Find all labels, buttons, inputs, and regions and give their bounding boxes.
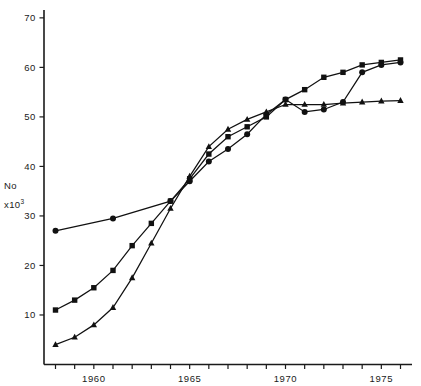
data-point-square bbox=[110, 268, 115, 273]
data-point-circle bbox=[206, 158, 212, 164]
y-axis-title-line1: No bbox=[4, 180, 17, 191]
chart-canvas: 10203040506070 1960196519701975 Nox103 bbox=[0, 0, 421, 386]
y-axis-tick-label: 40 bbox=[24, 161, 36, 172]
data-point-circle bbox=[53, 228, 59, 234]
data-point-square bbox=[53, 307, 58, 312]
data-point-square bbox=[168, 198, 173, 203]
data-point-circle bbox=[225, 146, 231, 152]
data-point-square bbox=[72, 297, 77, 302]
y-axis-tick-label: 20 bbox=[24, 260, 36, 271]
x-axis-tick-label: 1965 bbox=[178, 373, 202, 384]
y-axis-tick-label: 60 bbox=[24, 62, 36, 73]
data-point-square bbox=[302, 87, 307, 92]
data-point-square bbox=[206, 151, 211, 156]
y-axis-tick-label: 10 bbox=[24, 309, 36, 320]
data-point-square bbox=[379, 60, 384, 65]
data-point-square bbox=[129, 243, 134, 248]
y-axis-tick-label: 50 bbox=[24, 111, 36, 122]
data-point-square bbox=[359, 62, 364, 67]
data-point-circle bbox=[110, 215, 116, 221]
line-chart: 10203040506070 1960196519701975 Nox103 bbox=[0, 0, 421, 386]
x-axis-tick-label: 1970 bbox=[274, 373, 298, 384]
data-point-square bbox=[91, 285, 96, 290]
data-point-square bbox=[149, 221, 154, 226]
data-point-square bbox=[244, 124, 249, 129]
data-point-square bbox=[398, 57, 403, 62]
chart-background bbox=[0, 0, 421, 386]
data-point-circle bbox=[244, 131, 250, 137]
x-axis-tick-label: 1975 bbox=[370, 373, 394, 384]
y-axis-title-multiplier: x10 bbox=[4, 199, 21, 210]
y-axis-tick-label: 70 bbox=[24, 12, 36, 23]
y-axis-title-exponent: 3 bbox=[21, 198, 25, 205]
data-point-circle bbox=[359, 69, 365, 75]
x-axis-tick-label: 1960 bbox=[82, 373, 106, 384]
data-point-square bbox=[264, 114, 269, 119]
data-point-square bbox=[340, 70, 345, 75]
data-point-circle bbox=[321, 106, 327, 112]
data-point-square bbox=[321, 75, 326, 80]
data-point-square bbox=[225, 134, 230, 139]
data-point-circle bbox=[302, 109, 308, 115]
y-axis-tick-label: 30 bbox=[24, 210, 36, 221]
